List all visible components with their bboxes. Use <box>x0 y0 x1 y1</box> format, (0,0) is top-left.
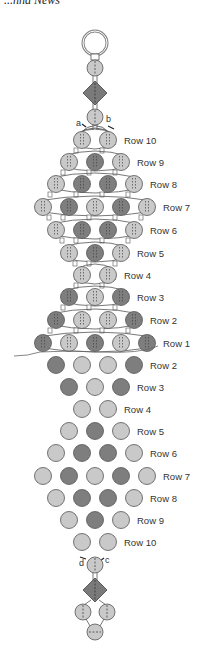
pattern-row: Row 3 <box>61 379 164 396</box>
light-bead <box>74 401 91 418</box>
row-label: Row 7 <box>163 471 190 482</box>
dark-bead <box>74 445 91 462</box>
light-bead <box>139 468 156 485</box>
row-label: Row 8 <box>150 179 177 190</box>
row-label: Row 2 <box>150 360 177 371</box>
light-bead <box>61 154 78 171</box>
dark-bead <box>113 379 130 396</box>
row-label: Row 2 <box>150 315 177 326</box>
pattern-row: Row 10 <box>74 534 157 551</box>
row-label: Row 1 <box>163 338 190 349</box>
row-label: Row 5 <box>137 248 164 259</box>
dark-bead <box>87 154 104 171</box>
light-bead <box>48 176 65 193</box>
dark-bead <box>87 423 104 440</box>
light-bead <box>74 132 91 149</box>
light-bead <box>35 468 52 485</box>
light-bead <box>100 357 117 374</box>
light-bead <box>126 222 143 239</box>
dark-bead <box>48 312 65 329</box>
light-bead <box>48 445 65 462</box>
dark-bead <box>100 445 117 462</box>
pattern-row: Row 2 <box>48 357 177 374</box>
dark-bead <box>100 176 117 193</box>
dark-bead <box>61 379 78 396</box>
row-label: Row 10 <box>124 537 156 548</box>
pattern-section: Row 2Row 3Row 4Row 5Row 6Row 7Row 8Row 9… <box>35 357 190 551</box>
dark-bead <box>113 468 130 485</box>
light-bead <box>61 335 78 352</box>
pattern-row: Row 9 <box>61 512 164 529</box>
light-bead <box>126 445 143 462</box>
row-label: Row 9 <box>137 157 164 168</box>
light-bead <box>74 534 91 551</box>
light-bead <box>113 245 130 262</box>
row-label: Row 6 <box>150 225 177 236</box>
row-label: Row 6 <box>150 448 177 459</box>
thread-label-c: c <box>105 555 110 565</box>
light-bead <box>74 312 91 329</box>
light-bead <box>113 335 130 352</box>
woven-row: Row 4 <box>74 267 151 284</box>
woven-row: Row 7 <box>35 199 190 216</box>
row-label: Row 4 <box>124 270 151 281</box>
light-bead <box>100 534 117 551</box>
pattern-row: Row 8 <box>48 490 177 507</box>
dark-bead <box>61 289 78 306</box>
pattern-row: Row 6 <box>48 445 177 462</box>
thread-label-d: d <box>79 558 84 568</box>
light-bead <box>48 222 65 239</box>
row-label: Row 3 <box>137 382 164 393</box>
dark-bead <box>87 512 104 529</box>
thread-label-b: b <box>106 114 111 124</box>
light-bead <box>100 312 117 329</box>
dark-bead <box>87 335 104 352</box>
dark-bead <box>74 490 91 507</box>
thread-label-a: a <box>76 118 81 128</box>
light-bead <box>61 512 78 529</box>
light-bead <box>113 512 130 529</box>
dark-bead <box>113 289 130 306</box>
dark-bead <box>100 490 117 507</box>
light-bead <box>100 267 117 284</box>
light-bead <box>126 490 143 507</box>
light-bead <box>126 176 143 193</box>
light-bead <box>48 490 65 507</box>
woven-row: Row 9 <box>61 154 164 171</box>
light-bead <box>61 423 78 440</box>
light-bead <box>139 199 156 216</box>
pattern-row: Row 4 <box>74 401 151 418</box>
bottom-findings: d c <box>75 555 115 640</box>
dark-bead <box>61 468 78 485</box>
light-bead <box>113 154 130 171</box>
woven-row: Row 1 <box>35 335 190 352</box>
dark-bead <box>126 312 143 329</box>
light-bead <box>87 199 104 216</box>
woven-row: Row 3 <box>61 289 164 306</box>
light-bead <box>100 401 117 418</box>
light-bead <box>87 289 104 306</box>
row-label: Row 3 <box>137 292 164 303</box>
woven-row: Row 2 <box>48 312 177 329</box>
light-bead <box>35 199 52 216</box>
row-label: Row 5 <box>137 426 164 437</box>
dark-bead <box>100 222 117 239</box>
light-bead <box>74 267 91 284</box>
beading-diagram: a b Row 10Row 9Row 8Row 7Row 6Row 5Row 4… <box>0 0 198 655</box>
light-bead <box>113 423 130 440</box>
light-bead <box>74 357 91 374</box>
row-label: Row 8 <box>150 493 177 504</box>
pattern-row: Row 5 <box>61 423 164 440</box>
dark-bead <box>61 199 78 216</box>
light-bead <box>61 245 78 262</box>
row-label: Row 10 <box>124 135 156 146</box>
woven-row: Row 10 <box>74 132 157 149</box>
row-label: Row 7 <box>163 202 190 213</box>
dark-bead <box>74 176 91 193</box>
light-bead <box>100 132 117 149</box>
pattern-row: Row 7 <box>35 468 190 485</box>
dark-bead <box>139 335 156 352</box>
light-bead <box>87 468 104 485</box>
row-label: Row 4 <box>124 404 151 415</box>
dark-bead <box>126 357 143 374</box>
